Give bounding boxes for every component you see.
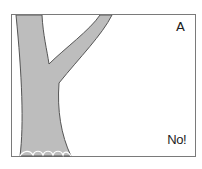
- panel-label: A: [176, 19, 185, 34]
- diagram-frame: A No!: [11, 14, 196, 157]
- tree-trunk-shape: [16, 15, 112, 156]
- caption-text: No!: [167, 132, 186, 147]
